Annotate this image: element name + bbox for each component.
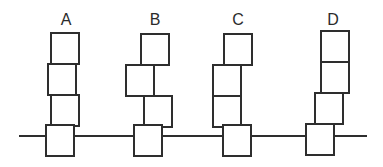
block	[51, 95, 79, 126]
block	[51, 33, 79, 64]
block	[223, 125, 251, 156]
stack-c: C	[213, 11, 252, 156]
block	[306, 124, 334, 155]
block	[46, 125, 74, 156]
stack-label: C	[232, 11, 244, 28]
block	[144, 96, 172, 127]
stack-label: B	[150, 11, 161, 28]
stacked-blocks-diagram: ABCD	[0, 0, 383, 167]
stack-d: D	[306, 11, 349, 155]
stack-label: D	[327, 11, 339, 28]
block	[48, 64, 76, 95]
stack-label: A	[61, 11, 72, 28]
stack-a: A	[46, 11, 79, 156]
block	[213, 65, 241, 96]
block	[141, 34, 169, 65]
block	[213, 96, 241, 127]
block	[321, 62, 349, 93]
stack-b: B	[126, 11, 172, 156]
block	[126, 65, 154, 96]
block-stacks: ABCD	[46, 11, 349, 156]
block	[315, 93, 343, 124]
block	[224, 34, 252, 65]
block	[134, 125, 162, 156]
block	[321, 31, 349, 62]
